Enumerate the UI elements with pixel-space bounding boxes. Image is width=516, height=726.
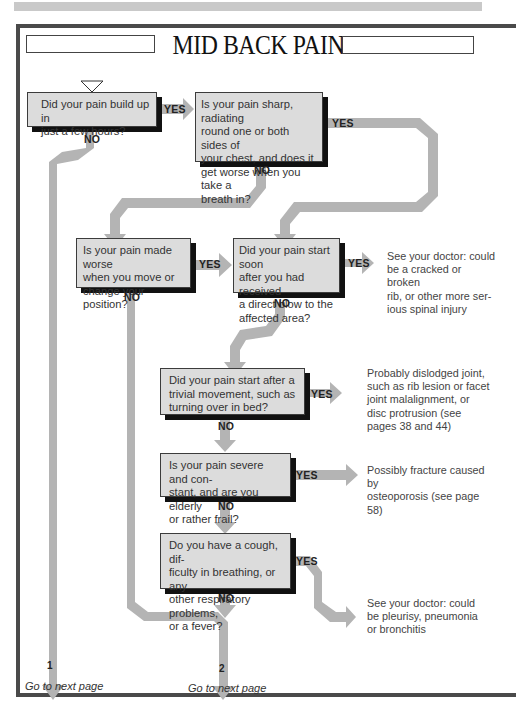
outcome-line: joint malalignment, or xyxy=(367,393,489,406)
yes-label-q5: YES xyxy=(311,388,333,400)
no-label-q7: NO xyxy=(218,592,234,604)
start-marker-icon xyxy=(81,81,103,92)
outcome-line: ious spinal injury xyxy=(387,303,497,316)
outcome-line: disc protrusion (see xyxy=(367,407,489,420)
question-line: affected area? xyxy=(239,312,333,326)
outcome-line: such as rib lesion or facet xyxy=(367,380,489,393)
exit-text-2[interactable]: Go to next page xyxy=(188,682,266,694)
exit-text-1[interactable]: Go to next page xyxy=(25,680,103,692)
yes-label-q4: YES xyxy=(348,257,370,269)
question-line: or rather frail? xyxy=(169,513,284,527)
arrow-q1-no xyxy=(49,130,94,692)
no-label-q2: NO xyxy=(254,164,270,176)
question-line: after you had received xyxy=(239,271,333,298)
yes-label-q6: YES xyxy=(296,469,318,481)
question-line: Do you have a cough, dif- xyxy=(169,539,284,566)
question-box-4: Did your pain start soon after you had r… xyxy=(233,238,340,293)
outcome-line: be a cracked or broken xyxy=(387,263,497,289)
question-line: breath in? xyxy=(201,193,316,207)
question-line: trivial movement, such as xyxy=(169,388,298,402)
question-line: or a fever? xyxy=(169,620,284,634)
question-line: Is your pain sharp, radiating xyxy=(201,98,316,125)
arrow-q5-no-head xyxy=(214,440,236,452)
yes-label-q7: YES xyxy=(296,555,318,567)
outcome-respiratory: See your doctor: could be pleurisy, pneu… xyxy=(367,597,478,637)
yes-label-q1: YES xyxy=(164,103,186,115)
outcome-line: See your doctor: could xyxy=(367,597,478,610)
question-line: Did your pain start after a xyxy=(169,374,298,388)
question-line: turning over in bed? xyxy=(169,401,298,415)
outcome-fracture: Possibly fracture caused by osteoporosis… xyxy=(367,464,497,517)
outcome-line: See your doctor: could xyxy=(387,250,497,263)
question-box-7: Do you have a cough, dif- ficulty in bre… xyxy=(160,533,291,589)
outcome-dislodged-joint: Probably dislodged joint, such as rib le… xyxy=(367,367,489,433)
question-line: Is your pain severe and con- xyxy=(169,459,284,486)
question-line: Did your pain build up in xyxy=(41,98,150,125)
outcome-line: be pleurisy, pneumonia xyxy=(367,610,478,623)
outcome-line: Possibly fracture caused by xyxy=(367,464,497,490)
question-box-2: Is your pain sharp, radiating round one … xyxy=(195,92,323,162)
question-box-1: Did your pain build up in just a few hou… xyxy=(27,92,157,127)
outcome-line: rib, or other more ser- xyxy=(387,290,497,303)
exit-number-2: 2 xyxy=(219,663,225,674)
question-line: Is your pain made worse xyxy=(83,244,184,271)
no-label-q1: NO xyxy=(84,133,100,145)
question-line: Did your pain start soon xyxy=(239,244,333,271)
outcome-line: osteoporosis (see page 58) xyxy=(367,490,497,516)
no-label-q3: NO xyxy=(124,291,140,303)
question-box-6: Is your pain severe and con- stant, and … xyxy=(160,453,291,497)
question-line: when you move or xyxy=(83,271,184,285)
no-label-q6: NO xyxy=(218,500,234,512)
no-label-q4: NO xyxy=(274,297,290,309)
outcome-line: or bronchitis xyxy=(367,623,478,636)
no-label-q5: NO xyxy=(218,420,234,432)
outcome-direct-blow: See your doctor: could be a cracked or b… xyxy=(387,250,497,316)
yes-label-q2: YES xyxy=(332,117,354,129)
outcome-line: Probably dislodged joint, xyxy=(367,367,489,380)
question-line: ficulty in breathing, or any xyxy=(169,566,284,593)
yes-label-q3: YES xyxy=(199,258,221,270)
question-box-3: Is your pain made worse when you move or… xyxy=(76,238,191,288)
exit-number-1: 1 xyxy=(47,660,53,671)
outcome-line: pages 38 and 44) xyxy=(367,420,489,433)
question-line: round one or both sides of xyxy=(201,125,316,152)
question-box-5: Did your pain start after a trivial move… xyxy=(160,368,305,415)
